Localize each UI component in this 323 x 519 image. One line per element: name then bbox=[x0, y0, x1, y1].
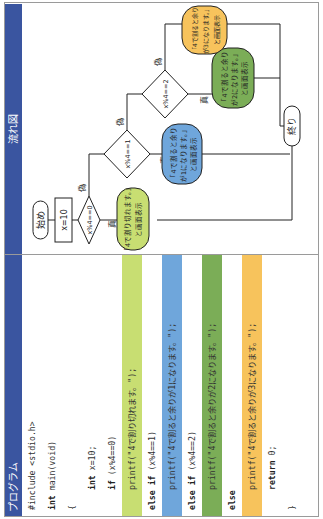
svg-text:偽: 偽 bbox=[77, 184, 87, 192]
svg-text:x%4==2: x%4==2 bbox=[162, 79, 170, 108]
svg-text:が3になります。」: が3になります。」 bbox=[202, 6, 210, 54]
code-line: if (x%4==0) bbox=[102, 255, 122, 516]
start-label: 始め bbox=[35, 211, 46, 229]
svg-text:真: 真 bbox=[199, 96, 209, 104]
code-line: { bbox=[62, 255, 82, 516]
svg-text:と画面表示: と画面表示 bbox=[213, 15, 221, 45]
svg-text:x%4==1: x%4==1 bbox=[124, 139, 132, 168]
program-header: プログラム bbox=[5, 254, 22, 516]
svg-text:が1になります。」: が1になります。」 bbox=[179, 126, 188, 182]
code-line: else bbox=[222, 255, 242, 516]
flowchart: 始め x=10 x%4==0 真 偽 「4で割り切れます。」 と画面表示 x%4… bbox=[22, 2, 318, 254]
rotated-page: プログラム 流れ図 #include <stdio.h> int main(vo… bbox=[0, 0, 323, 519]
svg-text:と画面表示: と画面表示 bbox=[134, 202, 143, 237]
code-line: #include <stdio.h> bbox=[22, 255, 42, 516]
svg-text:偽: 偽 bbox=[153, 58, 163, 66]
code-line: int main(void) bbox=[42, 255, 62, 516]
output-divisible bbox=[117, 188, 149, 250]
svg-text:「4で割り切れます。」: 「4で割り切れます。」 bbox=[123, 184, 132, 254]
code-line-highlight-lime: printf("4で割り切れます。"); bbox=[122, 255, 142, 516]
code-line: int x=10; bbox=[82, 255, 102, 516]
svg-text:偽: 偽 bbox=[115, 118, 125, 126]
code-line: else if (x%4==2) bbox=[182, 255, 202, 516]
code-line-highlight-orange: printf("4で割ると余りが3になります。"); bbox=[242, 255, 262, 516]
code-line: } bbox=[282, 255, 302, 516]
svg-text:「4で割ると余り: 「4で割ると余り bbox=[191, 7, 199, 53]
code-line: else if (x%4==1) bbox=[142, 255, 162, 516]
svg-text:「4で割ると余り: 「4で割ると余り bbox=[220, 51, 229, 104]
svg-text:が2になります。」: が2になります。」 bbox=[230, 50, 239, 106]
code-line-highlight-green: printf("4で割ると余りが2になります。"); bbox=[202, 255, 222, 516]
svg-text:と画面表示: と画面表示 bbox=[189, 137, 198, 172]
code-listing: #include <stdio.h> int main(void) { int … bbox=[22, 255, 302, 516]
code-line-highlight-blue: printf("4で割ると余りが1になります。"); bbox=[162, 255, 182, 516]
flowchart-header: 流れ図 bbox=[5, 4, 22, 254]
code-line: return 0; bbox=[262, 255, 282, 516]
svg-text:x%4==0: x%4==0 bbox=[86, 205, 94, 234]
svg-text:と画面表示: と画面表示 bbox=[240, 61, 249, 96]
svg-text:「4で割ると余り: 「4で割ると余り bbox=[169, 127, 178, 180]
svg-text:真: 真 bbox=[107, 220, 117, 228]
svg-text:終り: 終り bbox=[286, 117, 297, 135]
svg-text:x=10: x=10 bbox=[60, 209, 69, 231]
